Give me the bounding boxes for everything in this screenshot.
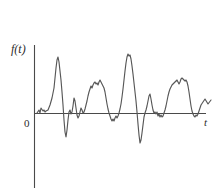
plot-canvas xyxy=(0,0,223,188)
signal-plot-figure: f(t) t 0 xyxy=(0,0,223,188)
y-axis-label: f(t) xyxy=(11,43,26,55)
signal-curve xyxy=(37,54,211,143)
x-axis-label: t xyxy=(204,117,207,128)
origin-label: 0 xyxy=(24,118,30,129)
